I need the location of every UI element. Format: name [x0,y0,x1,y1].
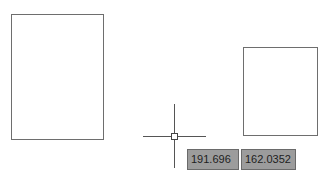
right-rectangle[interactable] [243,47,318,136]
left-rectangle[interactable] [11,14,104,140]
dynamic-input-x-field[interactable]: 191.696 [187,149,239,170]
pickbox-icon [171,133,178,140]
dynamic-input-y-field[interactable]: 162.0352 [241,149,296,170]
drawing-canvas[interactable]: 191.696 162.0352 [0,0,327,180]
